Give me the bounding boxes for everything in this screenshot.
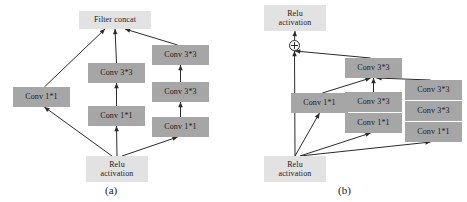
node-b-relu-activation-bottom[interactable]: Relu activation — [264, 156, 326, 182]
node-a-mid-conv1x1[interactable]: Conv 1*1 — [88, 106, 145, 126]
node-a-mid-conv3x3[interactable]: Conv 3*3 — [88, 63, 145, 83]
node-b-relu-activation-top[interactable]: Relu activation — [264, 5, 326, 31]
node-b-right-conv1x1[interactable]: Conv 1*1 — [405, 122, 462, 142]
panel-a-caption: (a) — [105, 184, 117, 196]
node-b-left-conv1x1[interactable]: Conv 1*1 — [291, 93, 348, 113]
panel-b-caption: (b) — [338, 184, 351, 196]
node-a-filter-concat[interactable]: Filter concat — [79, 11, 151, 29]
node-label: Relu activation — [278, 9, 311, 28]
node-label: Conv 3*3 — [417, 106, 450, 115]
sum-node-icon[interactable] — [289, 40, 300, 51]
node-a-right-conv3x3-mid[interactable]: Conv 3*3 — [152, 82, 209, 102]
node-b-right-conv3x3-mid[interactable]: Conv 3*3 — [405, 101, 462, 121]
node-a-left-conv1x1[interactable]: Conv 1*1 — [13, 87, 70, 107]
node-label: Conv 1*1 — [164, 122, 197, 131]
node-b-mid-conv1x1[interactable]: Conv 1*1 — [345, 113, 402, 133]
figure-root: Filter concat Conv 1*1 Conv 3*3 Conv 1*1… — [0, 0, 467, 202]
node-label: Conv 1*1 — [417, 127, 450, 136]
node-label: Conv 3*3 — [164, 50, 197, 59]
panel-b: Relu activation Conv 3*3 Conv 1*1 Conv 3… — [233, 0, 467, 202]
node-label: Conv 3*3 — [100, 68, 133, 77]
node-a-right-conv3x3-top[interactable]: Conv 3*3 — [152, 45, 209, 65]
node-a-relu-activation-bottom[interactable]: Relu activation — [86, 156, 148, 182]
node-label: Relu activation — [100, 160, 133, 179]
node-b-mid-conv3x3-top[interactable]: Conv 3*3 — [345, 58, 402, 78]
node-label: Relu activation — [278, 160, 311, 179]
node-label: Conv 1*1 — [25, 92, 58, 101]
node-b-mid-conv3x3[interactable]: Conv 3*3 — [345, 92, 402, 112]
node-b-right-conv3x3-top[interactable]: Conv 3*3 — [405, 80, 462, 100]
node-label: Filter concat — [94, 15, 136, 24]
node-label: Conv 1*1 — [100, 111, 133, 120]
node-label: Conv 1*1 — [357, 118, 390, 127]
node-a-right-conv1x1[interactable]: Conv 1*1 — [152, 117, 209, 137]
node-label: Conv 1*1 — [303, 98, 336, 107]
node-label: Conv 3*3 — [357, 97, 390, 106]
node-label: Conv 3*3 — [417, 85, 450, 94]
panel-a: Filter concat Conv 1*1 Conv 3*3 Conv 1*1… — [0, 0, 234, 202]
node-label: Conv 3*3 — [357, 63, 390, 72]
node-label: Conv 3*3 — [164, 87, 197, 96]
